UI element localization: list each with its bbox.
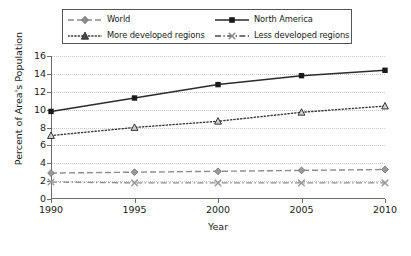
x-tick-label: 2005 — [289, 205, 313, 215]
data-point-square — [132, 95, 137, 100]
legend-marker-more-developed — [68, 28, 102, 42]
legend-marker-world — [68, 12, 102, 26]
data-point-diamond — [215, 168, 222, 175]
legend-label-more-developed: More developed regions — [107, 30, 205, 40]
y-tick-label: 4 — [40, 158, 46, 168]
x-tick — [218, 199, 219, 203]
series-line — [51, 70, 385, 111]
data-point-square — [215, 82, 220, 87]
data-point-square — [48, 109, 53, 114]
data-point-diamond — [48, 170, 55, 177]
y-tick-label: 6 — [40, 140, 46, 150]
y-tick-label: 12 — [34, 87, 46, 97]
legend-entry-north-america: North America — [215, 11, 313, 27]
data-point-square — [299, 73, 304, 78]
data-series-layer — [51, 56, 385, 199]
legend-entry-less-developed: Less developed regions — [215, 27, 349, 43]
legend-entry-world: World — [68, 11, 130, 27]
y-tick-label: 14 — [34, 69, 46, 79]
x-tick-label: 2010 — [373, 205, 397, 215]
x-tick — [135, 199, 136, 203]
y-axis-title: Percent of Area's Population — [13, 24, 24, 174]
series-north-america — [48, 68, 387, 115]
data-point-square — [382, 68, 387, 73]
series-more-developed-regions — [48, 102, 389, 138]
legend-entry-more-developed: More developed regions — [68, 27, 205, 43]
legend-label-world: World — [107, 14, 130, 24]
x-tick — [51, 199, 52, 203]
data-point-x — [215, 180, 221, 186]
legend-marker-less-developed — [215, 28, 249, 42]
x-tick — [385, 199, 386, 203]
y-tick-label: 0 — [40, 194, 46, 204]
chart-figure: World North America More developed regio… — [0, 0, 411, 256]
x-tick-label: 1995 — [122, 205, 146, 215]
y-tick-label: 2 — [40, 176, 46, 186]
chart-legend: World North America More developed regio… — [62, 9, 352, 44]
series-world — [48, 166, 389, 176]
x-tick-label: 1990 — [39, 205, 63, 215]
plot-area: 0246810121416 19901995200020052010 — [51, 56, 385, 199]
data-point-diamond — [382, 166, 389, 173]
legend-label-less-developed: Less developed regions — [254, 30, 349, 40]
legend-marker-north-america — [215, 12, 249, 26]
data-point-triangle — [48, 132, 55, 139]
legend-label-north-america: North America — [254, 14, 313, 24]
data-point-diamond — [131, 169, 138, 176]
y-tick-label: 8 — [40, 123, 46, 133]
y-tick-label: 16 — [34, 51, 46, 61]
data-point-diamond — [298, 167, 305, 174]
series-less-developed-regions — [48, 179, 388, 185]
y-tick-label: 10 — [34, 105, 46, 115]
x-tick-label: 2000 — [206, 205, 230, 215]
x-axis-title: Year — [51, 221, 385, 232]
x-tick — [302, 199, 303, 203]
